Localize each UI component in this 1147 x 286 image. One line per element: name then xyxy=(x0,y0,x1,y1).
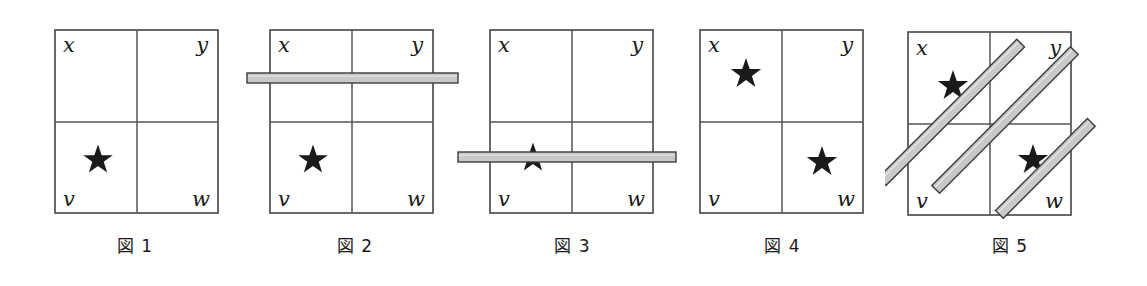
cell-label-bottom-left: v xyxy=(278,187,290,211)
figure-1-caption: 図 1 xyxy=(30,232,240,257)
figure-5-graphic: x y v w xyxy=(885,0,1135,230)
figure-4: x y v w 図 4 xyxy=(680,0,885,286)
cell-label-top-right: y xyxy=(195,33,209,57)
cell-label-bottom-right: w xyxy=(837,187,855,211)
cell-label-bottom-right: w xyxy=(627,187,645,211)
figure-1: x y v w 図 1 xyxy=(30,0,240,286)
cell-label-bottom-left: v xyxy=(916,189,928,213)
horizontal-bar xyxy=(247,73,458,83)
cell-label-bottom-right: w xyxy=(1045,189,1063,213)
figure-3: x y v w 図 3 xyxy=(455,0,690,286)
cell-label-top-right: y xyxy=(410,33,424,57)
horizontal-bar xyxy=(458,152,676,162)
figure-3-caption: 図 3 xyxy=(455,232,690,257)
cell-label-top-left: x xyxy=(63,33,75,57)
cell-label-top-left: x xyxy=(708,33,720,57)
figure-panel: x y v w 図 1 x y v w xyxy=(0,0,1147,286)
figure-2-caption: 図 2 xyxy=(240,232,470,257)
figure-1-graphic: x y v w xyxy=(30,0,240,230)
figure-5: x y v w 図 5 xyxy=(885,0,1135,286)
cell-label-bottom-left: v xyxy=(63,187,75,211)
cell-label-bottom-right: w xyxy=(407,187,425,211)
cell-label-bottom-left: v xyxy=(708,187,720,211)
figure-3-graphic: x y v w xyxy=(455,0,690,230)
cell-label-bottom-right: w xyxy=(192,187,210,211)
cell-label-top-left: x xyxy=(916,36,928,60)
cell-label-bottom-left: v xyxy=(498,187,510,211)
cell-label-top-right: y xyxy=(630,33,644,57)
figure-2: x y v w 図 2 xyxy=(240,0,470,286)
cell-label-top-left: x xyxy=(498,33,510,57)
figure-4-graphic: x y v w xyxy=(680,0,885,230)
cell-label-top-right: y xyxy=(840,33,854,57)
figure-5-caption: 図 5 xyxy=(885,232,1135,257)
cell-label-top-left: x xyxy=(278,33,290,57)
figure-4-caption: 図 4 xyxy=(680,232,885,257)
figure-2-graphic: x y v w xyxy=(240,0,470,230)
